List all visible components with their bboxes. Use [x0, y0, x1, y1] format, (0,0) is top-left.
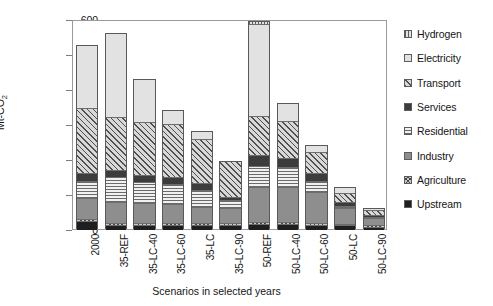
- x-tick-label: 50-LC-90: [377, 234, 388, 274]
- legend-item[interactable]: Electricity: [404, 46, 492, 70]
- bar-segment: [192, 208, 212, 223]
- bar-segment: [306, 153, 326, 174]
- legend-item[interactable]: Transport: [404, 71, 492, 95]
- stacked-bar[interactable]: [248, 21, 270, 229]
- bar-group: [102, 19, 131, 229]
- bar-segment: [192, 191, 212, 208]
- bar-segment: [106, 178, 126, 203]
- legend-item-label: Residential: [417, 125, 468, 137]
- y-axis-title-subscript: 2: [0, 95, 9, 99]
- bar-segment: [106, 203, 126, 224]
- legend-swatch-icon: [404, 30, 412, 38]
- bar-segment: [278, 168, 298, 188]
- bar-segment: [249, 225, 269, 230]
- bar-segment: [134, 123, 154, 177]
- bar-segment: [335, 226, 355, 230]
- bar-segment: [77, 222, 97, 230]
- stacked-bar[interactable]: [305, 145, 327, 229]
- bar-segment: [163, 185, 183, 205]
- x-tick-label: 35-LC-90: [234, 234, 245, 274]
- legend-swatch-icon: [404, 79, 412, 87]
- y-axis-title-text: Mt-CO: [0, 99, 6, 130]
- bar-segment: [278, 104, 298, 122]
- bar-segment: [77, 182, 97, 199]
- legend-item-label: Transport: [417, 77, 461, 89]
- bar-segment: [220, 162, 240, 198]
- bar-segment: [364, 228, 384, 230]
- legend-item[interactable]: Hydrogen: [404, 22, 492, 46]
- bar-segment: [77, 199, 97, 221]
- bar-segment: [106, 171, 126, 179]
- bar-segment: [249, 188, 269, 223]
- bar-segment: [278, 122, 298, 159]
- bar-group: [130, 19, 159, 229]
- legend-item[interactable]: Residential: [404, 119, 492, 143]
- stacked-bar[interactable]: [76, 45, 98, 229]
- x-tick-label: 50-LC-60: [319, 234, 330, 274]
- legend-item[interactable]: Upstream: [404, 192, 492, 216]
- bar-segment: [249, 156, 269, 167]
- x-tick-label: 35-LC-40: [148, 234, 159, 274]
- bar-group: [245, 19, 274, 229]
- bar-segment: [306, 182, 326, 194]
- bar-segment: [220, 209, 240, 224]
- stacked-bar[interactable]: [334, 187, 356, 229]
- bar-segment: [134, 176, 154, 183]
- bar-segment: [306, 193, 326, 223]
- stacked-bar[interactable]: [105, 33, 127, 229]
- bar-segment: [278, 188, 298, 223]
- chart-figure: Mt-CO2 0100200300400500600 200035-REF35-…: [0, 0, 493, 306]
- plot-area: [72, 20, 387, 230]
- legend-item-label: Industry: [417, 150, 454, 162]
- legend-swatch-icon: [404, 176, 412, 184]
- bar-segment: [106, 118, 126, 171]
- bars-layer: [73, 21, 386, 229]
- stacked-bar[interactable]: [277, 103, 299, 229]
- bar-segment: [335, 209, 355, 224]
- bar-segment: [163, 205, 183, 224]
- bar-segment: [278, 225, 298, 230]
- bar-segment: [192, 132, 212, 140]
- stacked-bar[interactable]: [363, 208, 385, 229]
- x-tick-label: 35-LC-60: [176, 234, 187, 274]
- legend-swatch-icon: [404, 54, 412, 62]
- stacked-bar[interactable]: [191, 131, 213, 229]
- bar-segment: [134, 80, 154, 123]
- bar-segment: [134, 183, 154, 204]
- legend-swatch-icon: [404, 103, 412, 111]
- bar-group: [188, 19, 217, 229]
- legend: HydrogenElectricityTransportServicesResi…: [404, 22, 492, 216]
- stacked-bar[interactable]: [162, 110, 184, 229]
- bar-group: [359, 19, 388, 229]
- bar-segment: [306, 226, 326, 230]
- bar-segment: [364, 219, 384, 226]
- bar-segment: [163, 111, 183, 125]
- legend-item[interactable]: Agriculture: [404, 168, 492, 192]
- bar-segment: [106, 34, 126, 118]
- bar-segment: [77, 174, 97, 182]
- bar-segment: [77, 109, 97, 174]
- bar-segment: [106, 226, 126, 230]
- stacked-bar[interactable]: [219, 161, 241, 229]
- stacked-bar[interactable]: [133, 79, 155, 230]
- legend-swatch-icon: [404, 200, 412, 208]
- legend-item[interactable]: Industry: [404, 143, 492, 167]
- legend-item-label: Upstream: [417, 198, 462, 210]
- bar-segment: [77, 46, 97, 109]
- bar-segment: [163, 178, 183, 185]
- bar-segment: [335, 194, 355, 203]
- y-axis-title: Mt-CO2: [0, 95, 9, 130]
- bar-group: [302, 19, 331, 229]
- bar-segment: [134, 204, 154, 224]
- x-tick-label: 50-REF: [262, 234, 273, 267]
- bar-group: [273, 19, 302, 229]
- x-tick-label: 2000: [90, 234, 101, 255]
- bar-segment: [163, 226, 183, 230]
- bar-group: [331, 19, 360, 229]
- legend-item[interactable]: Services: [404, 95, 492, 119]
- legend-item-label: Hydrogen: [417, 28, 462, 40]
- bar-segment: [249, 167, 269, 188]
- legend-item-label: Agriculture: [417, 174, 466, 186]
- x-tick-label: 50-LC-40: [291, 234, 302, 274]
- bar-group: [159, 19, 188, 229]
